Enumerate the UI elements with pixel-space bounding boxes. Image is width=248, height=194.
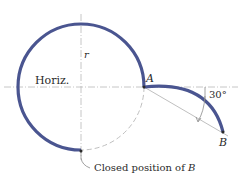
diagram-canvas: Horiz. r A B 30° Closed position of B [0, 0, 248, 194]
point-a-label: A [145, 72, 154, 85]
horiz-label: Horiz. [35, 74, 69, 87]
closed-position-label: Closed position of B [94, 162, 195, 173]
angle-label: 30° [209, 89, 227, 100]
point-b-marker [222, 131, 225, 134]
dashed-circle-arc [81, 87, 144, 150]
closed-position-point: B [187, 162, 195, 173]
closed-position-text: Closed position of [94, 162, 188, 173]
closed-position-marker [80, 150, 83, 153]
radius-label: r [84, 49, 90, 60]
point-b-label: B [218, 136, 227, 149]
closed-position-leader [81, 152, 90, 168]
point-a-marker [143, 86, 146, 89]
